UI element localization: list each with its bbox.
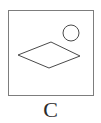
bordered-square-panel	[8, 10, 94, 96]
figure-caption: C	[0, 98, 101, 122]
figure-container: C	[0, 0, 101, 123]
